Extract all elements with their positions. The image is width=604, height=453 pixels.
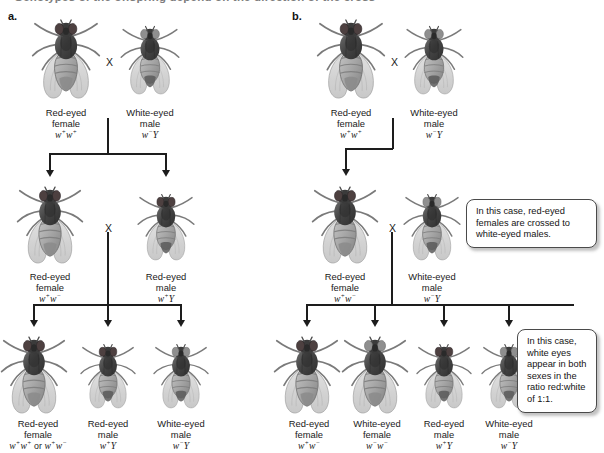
panel-a-f2-arrow-2 <box>104 320 112 327</box>
fly-label-genotype: w+Y <box>96 294 236 305</box>
panel-a-f2-drop-1 <box>33 304 35 321</box>
panel-a-f2-drop-2 <box>107 304 109 321</box>
panel-b-f2-drop-1 <box>306 304 308 321</box>
figure-canvas: Genotypes of the offspring depend on the… <box>0 0 604 453</box>
panel-a-p-stem <box>107 118 109 154</box>
panel-b-p-stem <box>392 118 394 149</box>
panel-b-f1-female-fly <box>309 181 381 271</box>
panel-a-p-cross-symbol: X <box>106 56 113 68</box>
panel-a-f1-male-fly <box>135 188 197 268</box>
panel-a-p-female-fly <box>29 14 103 106</box>
panel-a-f2-fly-3 <box>151 338 211 416</box>
panel-b-f2-fly-1 <box>271 331 343 421</box>
panel-a-f1-arrow-right <box>162 170 170 177</box>
panel-a-f2-arrow-1 <box>30 320 38 327</box>
panel-a-letter: a. <box>8 10 17 22</box>
panel-b-f2-drop-2 <box>374 304 376 321</box>
panel-b-f1-bar <box>306 304 574 306</box>
clipped-header-strip: Genotypes of the offspring depend on the… <box>0 0 604 7</box>
panel-a-p-male-fly <box>118 20 182 102</box>
fly-label-genotype: w−Y <box>439 441 579 452</box>
panel-b-p-male-fly <box>402 20 466 102</box>
panel-a-f1-drop-left <box>49 153 51 171</box>
panel-b-letter: b. <box>292 10 302 22</box>
panel-a-f1-male-label: Red-eyedmalew+Y <box>96 272 236 304</box>
panel-b-f1-arrow <box>342 169 350 176</box>
panel-a-f2-arrow-3 <box>177 320 185 327</box>
callout-ratio: In this case, white eyes appear in both … <box>517 329 597 413</box>
fly-label-genotype: w−Y <box>362 294 502 305</box>
panel-b-f1-male-label: White-eyedmalew−Y <box>362 272 502 304</box>
panel-b-f2-arrow-3 <box>440 320 448 327</box>
panel-a-f1-arrow-left <box>46 170 54 177</box>
panel-b-f1-stem <box>391 232 393 305</box>
panel-a-p-bar <box>49 153 166 155</box>
panel-b-f2-arrow-2 <box>371 320 379 327</box>
clipped-header-text: Genotypes of the offspring depend on the… <box>14 0 375 3</box>
panel-b-f2-fly-3 <box>414 338 474 416</box>
panel-b-f2-label-4: White-eyedmalew−Y <box>439 419 579 451</box>
panel-a-f2-fly-1 <box>0 331 70 421</box>
panel-a-f1-drop-right <box>165 153 167 171</box>
panel-a-f2-drop-3 <box>180 304 182 321</box>
panel-b-f2-drop-4 <box>508 304 510 321</box>
fly-label-genotype: w−Y <box>80 130 220 141</box>
panel-b-f2-arrow-1 <box>303 320 311 327</box>
panel-b-p-bar <box>345 148 393 150</box>
panel-b-f2-fly-2 <box>339 331 411 421</box>
callout-cross: In this case, red-eyed females are cross… <box>466 199 597 248</box>
fly-label-genotype: w−Y <box>364 130 504 141</box>
panel-b-f1-drop <box>345 148 347 170</box>
panel-b-f1-male-fly <box>401 188 463 268</box>
panel-b-p-male-label: White-eyedmalew−Y <box>364 108 504 140</box>
panel-b-f2-arrow-4 <box>505 320 513 327</box>
panel-b-p-female-fly <box>314 14 388 106</box>
panel-b-p-cross-symbol: X <box>391 56 398 68</box>
panel-a-f2-label-3: White-eyedmalew−Y <box>111 419 251 451</box>
fly-label-genotype: w−Y <box>111 441 251 452</box>
panel-a-p-male-label: White-eyedmalew−Y <box>80 108 220 140</box>
panel-a-f2-fly-2 <box>78 338 138 416</box>
panel-a-f1-female-fly <box>14 181 86 271</box>
panel-a-f1-stem <box>107 232 109 305</box>
panel-b-f2-drop-3 <box>443 304 445 321</box>
